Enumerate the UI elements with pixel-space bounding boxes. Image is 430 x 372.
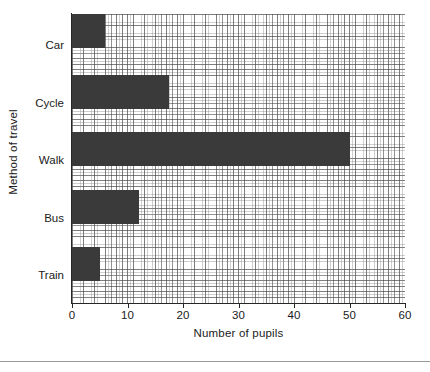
x-tick-mark-20	[183, 303, 184, 308]
x-tick-mark-60	[405, 303, 406, 308]
x-tick-mark-10	[128, 303, 129, 308]
x-tick-label-0: 0	[69, 309, 75, 322]
bar-bus	[72, 190, 139, 224]
bottom-rule	[0, 361, 430, 362]
x-tick-mark-50	[350, 303, 351, 308]
bar-chart-figure: Method of travel Car Cycle Walk Bus Trai…	[0, 0, 430, 372]
y-tick-label-cycle: Cycle	[22, 97, 64, 109]
x-tick-label-60: 60	[399, 309, 412, 322]
plot-area	[72, 14, 405, 303]
x-tick-mark-0	[72, 303, 73, 308]
y-axis-tick-labels: Car Cycle Walk Bus Train	[26, 14, 68, 303]
y-axis-title-text: Method of travel	[7, 109, 19, 195]
x-axis-title: Number of pupils	[72, 327, 405, 339]
y-tick-label-train: Train	[22, 269, 64, 281]
bar-car	[72, 14, 105, 48]
x-tick-label-30: 30	[232, 309, 245, 322]
bar-cycle	[72, 75, 169, 109]
x-axis-ticks: 0102030405060	[0, 303, 430, 321]
bar-walk	[72, 132, 350, 166]
bar-train	[72, 247, 100, 281]
x-tick-label-40: 40	[288, 309, 301, 322]
y-tick-label-bus: Bus	[22, 212, 64, 224]
x-tick-mark-30	[239, 303, 240, 308]
y-tick-label-walk: Walk	[22, 154, 64, 166]
x-tick-label-10: 10	[121, 309, 134, 322]
x-tick-label-20: 20	[177, 309, 190, 322]
y-tick-label-car: Car	[22, 39, 64, 51]
x-tick-mark-40	[294, 303, 295, 308]
x-tick-label-50: 50	[343, 309, 356, 322]
y-axis-line	[71, 13, 72, 304]
